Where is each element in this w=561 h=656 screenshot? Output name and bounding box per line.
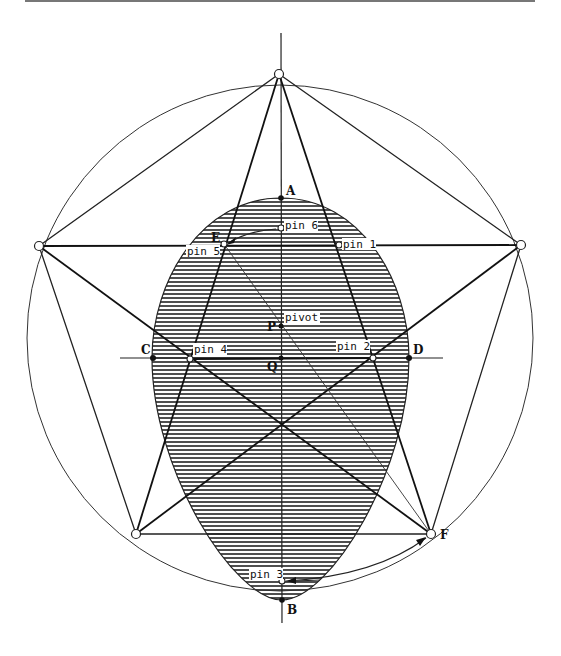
label-p: P bbox=[267, 320, 276, 334]
label-pin-2: pin 2 bbox=[337, 340, 370, 353]
label-c: C bbox=[141, 343, 151, 357]
label-b: B bbox=[287, 603, 297, 617]
label-pin-6: pin 6 bbox=[285, 219, 318, 232]
label-pin-1: pin 1 bbox=[343, 238, 376, 251]
hatched-oval bbox=[152, 198, 409, 600]
pentagram-oval-diagram: A B C D E F P Q pin 1 pin 2 pin 3 pin 4 … bbox=[0, 0, 561, 656]
label-pin-5: pin 5 bbox=[187, 245, 220, 258]
label-d: D bbox=[413, 343, 423, 357]
label-pin-3: pin 3 bbox=[250, 568, 283, 581]
arrowhead-f-icon bbox=[416, 537, 426, 546]
label-e: E bbox=[211, 231, 220, 245]
label-pivot: pivot bbox=[285, 311, 318, 324]
label-pin-4: pin 4 bbox=[194, 343, 227, 356]
label-a: A bbox=[285, 184, 296, 198]
label-q: Q bbox=[267, 360, 277, 374]
label-f: F bbox=[440, 528, 449, 542]
